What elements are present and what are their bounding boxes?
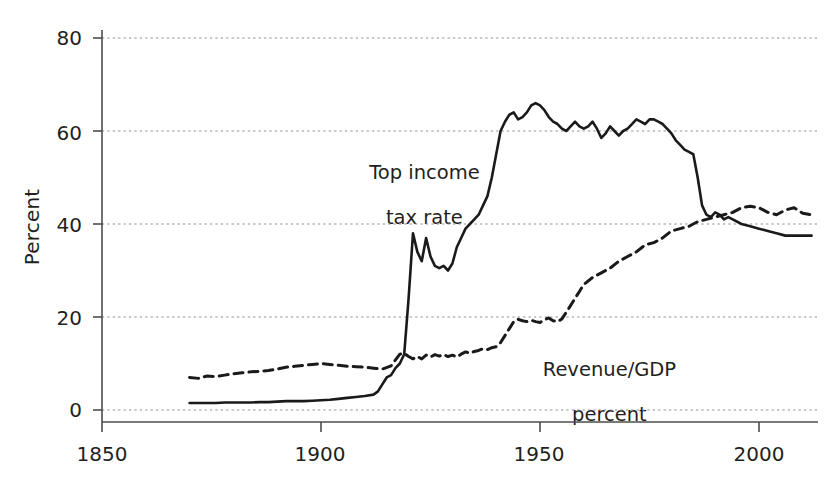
chart-figure-root: Percent 80 60 40 20 0 1850 1900 1950 200… <box>0 0 836 486</box>
chart-plot-area <box>0 0 836 486</box>
data-series-group <box>190 103 812 403</box>
series-line-top-income-tax-rate <box>190 103 812 403</box>
axis-ticks-group <box>93 38 759 432</box>
axis-lines-group <box>102 30 818 422</box>
series-line-revenue-gdp-percent <box>190 206 812 378</box>
